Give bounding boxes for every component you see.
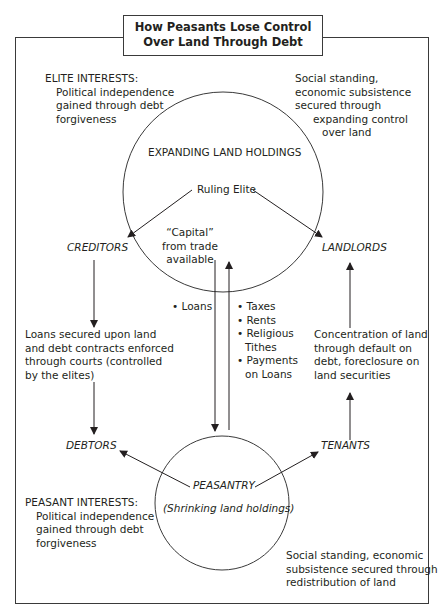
elite-interests-heading: ELITE INTERESTS: bbox=[45, 72, 174, 86]
note-line: debt, foreclosure on bbox=[314, 355, 428, 369]
note-line: through default on bbox=[314, 342, 428, 356]
expanding-land-holdings-label: EXPANDING LAND HOLDINGS bbox=[148, 146, 301, 160]
note-line: by the elites) bbox=[25, 369, 174, 383]
diagram-title: How Peasants Lose Control Over Land Thro… bbox=[123, 15, 323, 56]
flow-item: • Religious bbox=[237, 327, 298, 341]
node-debtors: DEBTORS bbox=[66, 439, 117, 453]
elite-interests-line: Political independence bbox=[45, 86, 174, 100]
capital-line: available bbox=[155, 253, 225, 267]
arrow-peasantry-to-debtors bbox=[120, 451, 190, 487]
note-line: and debt contracts enforced bbox=[25, 342, 174, 356]
capital-line: “Capital” bbox=[155, 226, 225, 240]
peasantry-label: PEASANTRY bbox=[193, 479, 255, 493]
shrinking-land-holdings-label: (Shrinking land holdings) bbox=[163, 502, 294, 516]
note-line: Social standing, economic bbox=[286, 549, 438, 563]
right-middle-note: Concentration of land through default on… bbox=[314, 328, 428, 382]
title-line-1: How Peasants Lose Control bbox=[124, 20, 322, 35]
note-line: subsistence secured through bbox=[286, 563, 438, 577]
note-line: through courts (controlled bbox=[25, 355, 174, 369]
note-line: secured through bbox=[295, 99, 411, 113]
elite-interests-line: forgiveness bbox=[45, 113, 174, 127]
peasant-interests-line: Political independence bbox=[25, 510, 154, 524]
node-landlords: LANDLORDS bbox=[322, 241, 387, 255]
flow-item: • Rents bbox=[237, 314, 298, 328]
elite-right-note: Social standing, economic subsistence se… bbox=[295, 72, 411, 140]
note-line: redistribution of land bbox=[286, 576, 438, 590]
peasant-interests: PEASANT INTERESTS: Political independenc… bbox=[25, 496, 154, 550]
title-line-2: Over Land Through Debt bbox=[124, 35, 322, 50]
elite-interests: ELITE INTERESTS: Political independence … bbox=[45, 72, 174, 126]
arrow-peasantry-to-tenants bbox=[255, 452, 318, 487]
flow-item: Tithes bbox=[237, 341, 298, 355]
flow-item: • Payments bbox=[237, 354, 298, 368]
flow-item: on Loans bbox=[237, 368, 298, 382]
peasant-interests-heading: PEASANT INTERESTS: bbox=[25, 496, 154, 510]
loans-flow-label: • Loans bbox=[172, 300, 212, 314]
flow-item: • Taxes bbox=[237, 300, 298, 314]
note-line: expanding control bbox=[295, 113, 411, 127]
peasant-right-note: Social standing, economic subsistence se… bbox=[286, 549, 438, 590]
note-line: Concentration of land bbox=[314, 328, 428, 342]
note-line: Loans secured upon land bbox=[25, 328, 174, 342]
ruling-elite-label: Ruling Elite bbox=[197, 183, 256, 197]
elite-interests-line: gained through debt bbox=[45, 99, 174, 113]
node-creditors: CREDITORS bbox=[67, 241, 128, 255]
note-line: over land bbox=[295, 126, 411, 140]
arrow-elite-to-landlords bbox=[253, 190, 322, 237]
note-line: economic subsistence bbox=[295, 86, 411, 100]
note-line: land securities bbox=[314, 369, 428, 383]
capital-label: “Capital” from trade available bbox=[155, 226, 225, 267]
note-line: Social standing, bbox=[295, 72, 411, 86]
left-middle-note: Loans secured upon land and debt contrac… bbox=[25, 328, 174, 382]
peasant-interests-line: forgiveness bbox=[25, 537, 154, 551]
capital-line: from trade bbox=[155, 240, 225, 254]
peasant-interests-line: gained through debt bbox=[25, 523, 154, 537]
node-tenants: TENANTS bbox=[321, 439, 370, 453]
payments-flow-list: • Taxes • Rents • Religious Tithes • Pay… bbox=[237, 300, 298, 381]
